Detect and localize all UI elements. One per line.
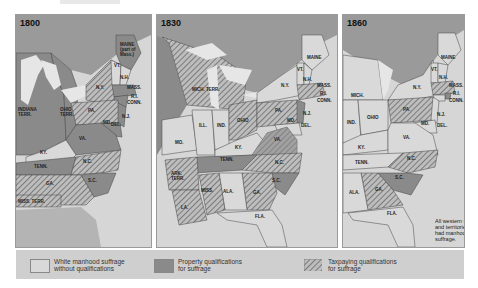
label-md: MD. [103, 120, 111, 125]
label-ny: N.Y. [281, 83, 289, 88]
legend-label-line1: Taxpaying qualifications [328, 258, 397, 265]
label-va: VA. [274, 137, 281, 142]
label-del: DEL. [301, 123, 311, 128]
legend-swatch-taxpaying [304, 259, 322, 271]
legend-label-line2: for suffrage [178, 265, 242, 272]
label-mass: MASS. [449, 83, 463, 88]
western-note: All western states and territories had m… [435, 218, 465, 242]
legend-label-line2: without qualifications [54, 265, 125, 272]
label-nj: N.J. [303, 111, 311, 116]
label-sc: S.C. [88, 178, 97, 183]
map-1860-svg [343, 15, 464, 247]
label-ny: N.Y. [96, 85, 104, 90]
label-va: VA. [403, 135, 410, 140]
label-nc: N.C. [275, 160, 284, 165]
label-ga: GA. [46, 181, 54, 186]
label-mass: MASS. [317, 83, 331, 88]
label-maine: MAINE [307, 55, 322, 60]
label-ala: ALA. [223, 189, 234, 194]
label-ohio: OHIO [367, 115, 379, 120]
label-mich: MICH. [351, 93, 364, 98]
label-md: MD. [421, 121, 429, 126]
legend-label-line2: for suffrage [328, 265, 397, 272]
label-sc: S.C. [395, 175, 404, 180]
label-tenn: TENN. [220, 157, 234, 162]
map-year: 1830 [161, 18, 181, 28]
label-va: VA. [79, 136, 86, 141]
label-ky: KY. [358, 145, 365, 150]
label-ohio-terr: OHIO TERR. [60, 107, 76, 117]
label-conn: CONN. [317, 98, 332, 103]
label-ind: IND. [347, 120, 356, 125]
label-vt: VT. [114, 63, 121, 68]
label-nj: N.J. [122, 114, 130, 119]
label-mich-terr: MICH. TERR. [192, 87, 220, 92]
map-1830: 1830 MAINE VT. N.H. MASS. R.I. CONN. N.Y… [156, 14, 338, 248]
label-mo: MO. [175, 140, 184, 145]
map-1830-svg [157, 15, 337, 247]
map-year: 1860 [347, 18, 367, 28]
map-1800: 1800 MAINE (part of Mass.) VT. N.H. MASS… [15, 14, 152, 248]
map-1860: 1860 MAINE VT. N.H. MASS. R.I. CONN. N.Y… [342, 14, 465, 248]
legend-swatch-white [30, 259, 50, 273]
label-ark-terr: ARK. TERR. [171, 171, 187, 181]
label-ky: KY. [235, 145, 242, 150]
legend-item-taxpaying: Taxpaying qualifications for suffrage [304, 257, 444, 273]
label-miss-terr: MISS. TERR. [18, 199, 45, 204]
label-indiana-terr: INDIANA TERR. [18, 107, 40, 117]
label-pa: PA. [403, 107, 410, 112]
legend: White manhood suffrage without qualifica… [16, 250, 464, 279]
label-nh: N.H. [439, 75, 448, 80]
label-nh: N.H. [303, 77, 312, 82]
label-ga: GA. [253, 190, 261, 195]
label-sc: S.C. [272, 178, 281, 183]
label-nc: N.C. [407, 156, 416, 161]
legend-label: White manhood suffrage without qualifica… [54, 258, 125, 272]
label-fla: FLA. [255, 214, 265, 219]
label-la: LA. [181, 205, 188, 210]
label-ohio: OHIO [237, 118, 249, 123]
label-ill: ILL. [199, 123, 207, 128]
label-del: DEL. [111, 122, 121, 127]
label-nh: N.H. [120, 75, 129, 80]
map-year: 1800 [20, 18, 40, 28]
legend-item-white-manhood: White manhood suffrage without qualifica… [30, 257, 160, 273]
legend-label-line1: White manhood suffrage [54, 258, 125, 265]
label-maine: MAINE (part of Mass.) [120, 42, 142, 57]
label-tenn: TENN. [34, 164, 48, 169]
label-mass: MASS. [127, 85, 141, 90]
legend-label-line1: Property qualifications [178, 258, 242, 265]
caption-remnant [60, 0, 120, 4]
label-nc: N.C. [83, 159, 92, 164]
legend-item-property: Property qualifications for suffrage [154, 257, 284, 273]
label-ky: KY. [40, 150, 47, 155]
label-pa: PA. [275, 108, 282, 113]
label-miss: MISS. [201, 188, 213, 193]
label-ri: R.I. [453, 91, 460, 96]
label-conn: CONN. [127, 100, 142, 105]
label-tenn: TENN. [355, 160, 369, 165]
label-fla: FLA. [387, 211, 397, 216]
label-vt: VT. [297, 67, 304, 72]
label-pa: PA. [88, 108, 95, 113]
label-ny: N.Y. [413, 85, 421, 90]
label-del: DEL. [437, 123, 447, 128]
label-vt: VT. [431, 67, 438, 72]
legend-swatch-property [154, 259, 174, 273]
label-ri: R.I. [320, 91, 327, 96]
legend-label: Taxpaying qualifications for suffrage [328, 258, 397, 272]
label-ga: GA. [375, 187, 383, 192]
label-nj: N.J. [437, 112, 445, 117]
label-conn: CONN. [449, 98, 464, 103]
label-md: MD. [287, 118, 295, 123]
label-ala: ALA. [349, 190, 360, 195]
label-maine: MAINE [441, 55, 456, 60]
label-ri: R.I. [131, 94, 138, 99]
legend-label: Property qualifications for suffrage [178, 258, 242, 272]
label-ind: IND. [217, 123, 226, 128]
